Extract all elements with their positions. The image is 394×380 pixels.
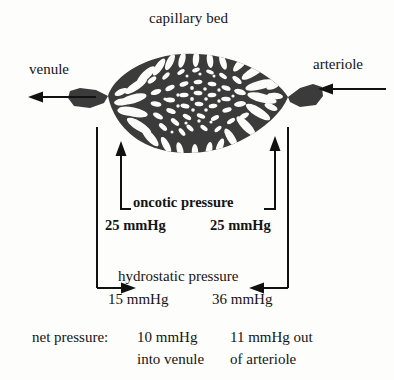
- venule-arrow-icon: [28, 92, 96, 103]
- venule-stem-shape: [68, 88, 108, 108]
- oncotic-left-value: 25 mmHg: [105, 218, 166, 233]
- oncotic-pressure-label: oncotic pressure: [133, 195, 234, 210]
- hydrostatic-right-value: 36 mmHg: [212, 292, 272, 308]
- oncotic-right-arrow-icon: [264, 136, 281, 210]
- venule-label: venule: [29, 62, 69, 78]
- net-pressure-left-detail: into venule: [137, 352, 204, 368]
- oncotic-right-value: 25 mmHg: [210, 218, 271, 233]
- hydrostatic-left-value: 15 mmHg: [108, 292, 168, 308]
- hydrostatic-pressure-label: hydrostatic pressure: [118, 269, 238, 285]
- capillary-bed-figure: capillary bed venule arteriole oncotic p…: [0, 0, 394, 380]
- arteriole-label: arteriole: [313, 57, 363, 73]
- capillary-bed-shape: [108, 51, 288, 160]
- arteriole-stem-shape: [288, 84, 323, 107]
- net-pressure-right-value: 11 mmHg out: [230, 330, 313, 346]
- oncotic-left-arrow-icon: [116, 141, 132, 210]
- capillary-network-lacunae: [113, 51, 283, 160]
- net-pressure-right-detail: of arteriole: [230, 352, 296, 368]
- page-title: capillary bed: [149, 11, 228, 27]
- net-pressure-left-value: 10 mmHg: [137, 330, 197, 346]
- net-pressure-label: net pressure:: [32, 330, 108, 346]
- arteriole-arrow-icon: [318, 84, 386, 95]
